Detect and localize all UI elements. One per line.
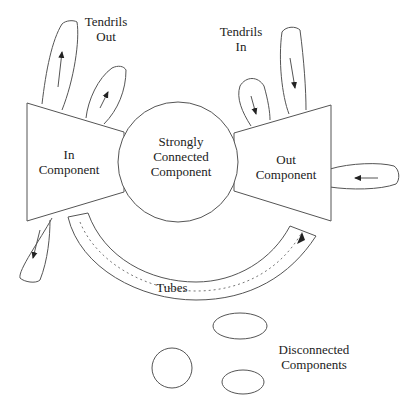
tendril-out-1 [42,21,78,110]
tubes-band [68,213,316,300]
label-out-component: Out Component [256,152,317,182]
label-tendrils-out: Tendrils Out [85,14,127,44]
label-scc: Strongly Connected Component [151,134,212,179]
disconnected-ellipse-2 [222,370,264,394]
tendril-bottom-left [20,218,52,282]
label-tubes: Tubes [156,280,187,295]
tendril-in-1 [239,79,270,127]
tendril-right [330,164,399,189]
label-in-component: In Component [39,147,100,177]
tendril-in-2 [280,27,306,114]
label-tendrils-in: Tendrils In [220,24,262,54]
tendril-out-2 [86,66,126,124]
disconnected-ellipse-1 [213,313,267,339]
disconnected-circle [152,348,192,388]
diagram-canvas [0,0,414,415]
label-disconnected-components: Disconnected Components [279,342,350,372]
bow-tie-diagram: Tendrils Out Tendrils In In Component St… [0,0,414,415]
